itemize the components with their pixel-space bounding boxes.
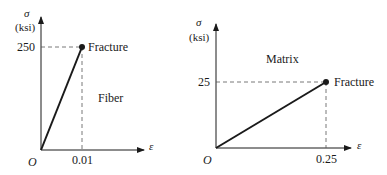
matrix-sigma-label: σ bbox=[196, 17, 201, 28]
matrix-chart bbox=[216, 24, 351, 148]
fiber-chart bbox=[41, 17, 144, 150]
matrix-unit-label: (ksi) bbox=[189, 32, 209, 43]
fiber-title: Fiber bbox=[98, 92, 123, 104]
matrix-y-tick-label: 25 bbox=[198, 76, 210, 88]
fiber-unit-label: (ksi) bbox=[15, 22, 35, 33]
fiber-y-tick-label: 250 bbox=[17, 41, 35, 53]
diagram-graphics bbox=[0, 0, 387, 175]
fiber-sigma-label: σ bbox=[24, 8, 29, 19]
fiber-stress-strain-line bbox=[41, 47, 82, 150]
matrix-fracture-label: Fracture bbox=[334, 76, 374, 88]
fiber-fracture-point bbox=[79, 44, 85, 50]
fiber-epsilon-label: ε bbox=[149, 141, 153, 152]
matrix-epsilon-label: ε bbox=[357, 140, 361, 151]
matrix-stress-strain-line bbox=[216, 82, 326, 148]
fiber-origin-label: O bbox=[28, 156, 37, 168]
fiber-x-tick-label: 0.01 bbox=[72, 154, 93, 166]
fiber-fracture-label: Fracture bbox=[88, 41, 128, 53]
matrix-origin-label: O bbox=[203, 154, 212, 166]
matrix-fracture-point bbox=[323, 79, 329, 85]
matrix-title: Matrix bbox=[266, 53, 299, 65]
matrix-x-tick-label: 0.25 bbox=[316, 153, 337, 165]
